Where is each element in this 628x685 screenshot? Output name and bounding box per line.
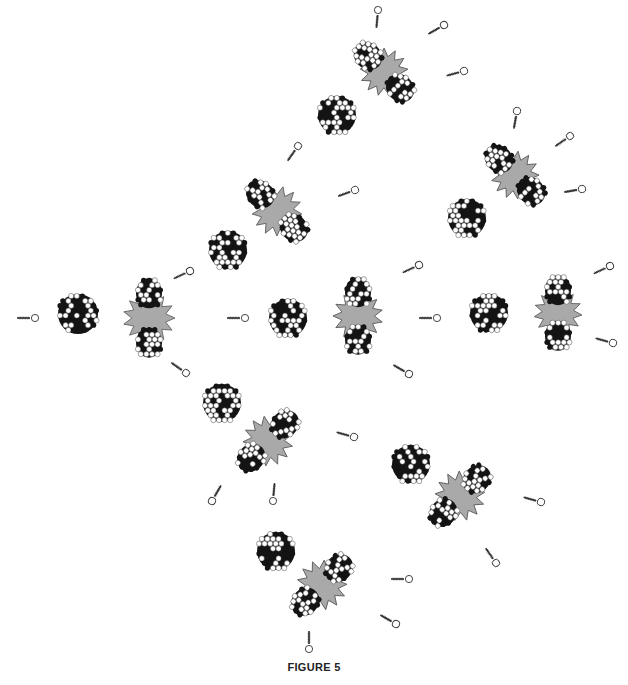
nucleus-icon: [447, 198, 486, 237]
fission-event: [422, 459, 497, 534]
neutron-icon: [595, 335, 618, 348]
neutron-icon: [446, 67, 469, 80]
neutron-icon: [401, 260, 424, 276]
neutron-icon: [207, 484, 224, 506]
fission-event: [478, 138, 551, 211]
neutron-icon: [523, 494, 546, 507]
fission-event: [328, 277, 388, 355]
fission-event: [230, 404, 305, 479]
neutron-icon: [373, 6, 382, 28]
neutron-icon: [336, 429, 359, 442]
neutron-icon: [379, 612, 401, 629]
nucleus-icon: [256, 531, 295, 570]
neutron-icon: [227, 314, 249, 321]
nucleus-icon: [469, 293, 508, 332]
neutron-icon: [337, 185, 360, 199]
neutron-icon: [419, 314, 441, 321]
nucleus-icon: [317, 95, 356, 134]
neutron-icon: [172, 266, 195, 282]
fission-chain-diagram: [0, 0, 628, 685]
fission-event: [240, 173, 315, 248]
neutron-icon: [305, 631, 312, 653]
neutron-icon: [169, 360, 191, 378]
fission-event: [533, 275, 584, 351]
fragment-nucleus-icon: [135, 278, 163, 309]
fission-event: [124, 278, 175, 358]
nucleus-icon: [57, 293, 99, 334]
neutron-icon: [285, 141, 303, 163]
neutron-icon: [553, 131, 575, 149]
neutron-icon: [391, 575, 413, 582]
neutron-icon: [17, 314, 39, 321]
neutron-icon: [564, 185, 587, 196]
neutron-icon: [592, 261, 615, 277]
neutron-icon: [392, 362, 414, 379]
nucleus-icon: [391, 444, 430, 483]
nucleus-icon: [202, 383, 241, 422]
fission-event: [284, 548, 359, 623]
nucleus-icon: [208, 230, 247, 269]
figure-caption: FIGURE 5: [0, 661, 628, 673]
neutron-icon: [269, 483, 278, 505]
neutron-icon: [427, 20, 449, 37]
neutron-icon: [483, 546, 501, 568]
nucleus-icon: [268, 298, 307, 337]
neutrons-layer: [17, 6, 617, 653]
fragment-nucleus-icon: [344, 277, 372, 308]
fragment-nucleus-icon: [544, 275, 572, 306]
neutron-icon: [510, 107, 521, 130]
fission-event: [347, 35, 420, 108]
